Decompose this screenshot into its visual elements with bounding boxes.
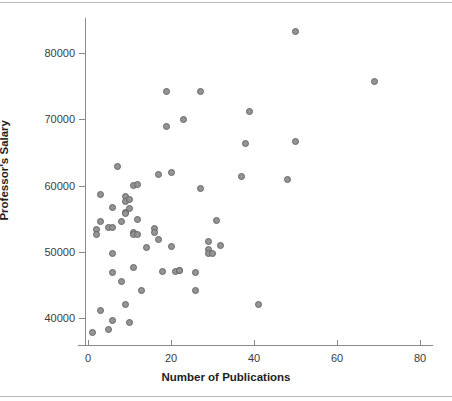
scatter-point xyxy=(118,218,125,225)
scatter-point xyxy=(118,278,125,285)
scatter-point xyxy=(143,244,150,251)
scatter-point xyxy=(284,176,291,183)
scatter-point xyxy=(292,138,299,145)
scatter-plot-figure: 4000050000600007000080000 020406080 Prof… xyxy=(0,0,452,401)
scatter-point xyxy=(176,267,183,274)
scatter-point xyxy=(197,88,204,95)
scatter-point xyxy=(242,140,249,147)
y-tick-label: 40000 xyxy=(17,312,75,324)
y-tick-label: 50000 xyxy=(17,246,75,258)
y-tick-label: 60000 xyxy=(17,180,75,192)
x-tick-label: 60 xyxy=(331,352,343,364)
scatter-point xyxy=(97,307,104,314)
top-divider-rule xyxy=(0,2,452,3)
x-axis-title: Number of Publications xyxy=(0,371,452,383)
x-axis-line xyxy=(78,345,433,346)
x-tick-label: 0 xyxy=(85,352,91,364)
scatter-point xyxy=(134,181,141,188)
scatter-point xyxy=(371,78,378,85)
scatter-point xyxy=(126,196,133,203)
scatter-point xyxy=(168,169,175,176)
scatter-point xyxy=(126,205,133,212)
scatter-point xyxy=(89,329,96,336)
scatter-point xyxy=(97,218,104,225)
scatter-point xyxy=(155,236,162,243)
scatter-point xyxy=(93,231,100,238)
x-tick-label: 40 xyxy=(248,352,260,364)
scatter-point xyxy=(197,185,204,192)
scatter-point xyxy=(168,243,175,250)
bottom-divider-rule xyxy=(0,396,452,397)
scatter-point xyxy=(155,171,162,178)
scatter-point xyxy=(151,229,158,236)
scatter-point xyxy=(255,301,262,308)
x-tick-label: 80 xyxy=(414,352,426,364)
y-tick-label: 80000 xyxy=(17,47,75,59)
x-tick-label: 20 xyxy=(165,352,177,364)
scatter-point xyxy=(292,28,299,35)
y-axis-title: Professor's Salary xyxy=(0,120,10,221)
scatter-point xyxy=(114,163,121,170)
y-tick-label: 70000 xyxy=(17,113,75,125)
scatter-point xyxy=(217,242,224,249)
